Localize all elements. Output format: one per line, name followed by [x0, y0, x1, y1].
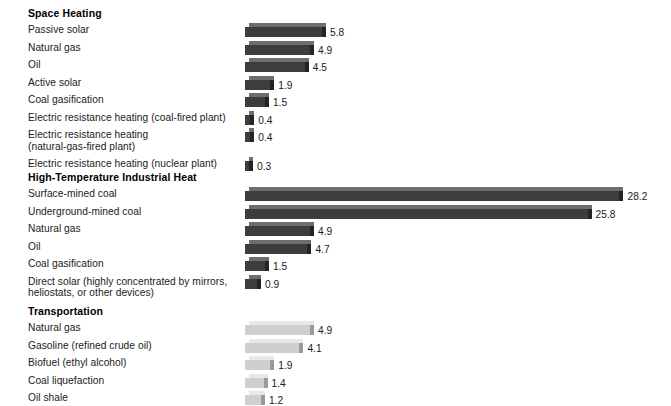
bar	[245, 205, 592, 219]
bar-side-face	[250, 132, 254, 142]
value-label: 4.9	[318, 325, 332, 336]
bar-front-face	[245, 244, 307, 254]
value-label: 28.2	[627, 191, 647, 202]
category-label: Natural gas	[28, 223, 81, 235]
bar	[245, 321, 314, 335]
bar-front-face	[245, 45, 310, 55]
bar-front-face	[245, 343, 299, 353]
bar-front-face	[245, 80, 270, 90]
bar-side-face	[264, 378, 268, 388]
bar-side-face	[265, 97, 269, 107]
category-label: Passive solar	[28, 24, 89, 36]
value-label: 1.4	[272, 378, 286, 389]
value-label: 1.9	[278, 80, 292, 91]
value-label: 5.8	[330, 27, 344, 38]
category-label: Gasoline (refined crude oil)	[28, 340, 152, 352]
value-label: 0.4	[258, 132, 272, 143]
value-label: 1.9	[278, 360, 292, 371]
bar	[245, 111, 254, 125]
category-label: Direct solar (highly concentrated by mir…	[28, 276, 227, 299]
bar	[245, 41, 314, 55]
category-label: Oil	[28, 59, 41, 71]
value-label: 0.4	[258, 115, 272, 126]
bar-side-face	[261, 395, 265, 405]
bar	[245, 356, 274, 370]
group-header: Transportation	[28, 305, 103, 317]
bar-side-face	[250, 115, 254, 125]
bar	[245, 222, 314, 236]
bar-side-face	[249, 161, 253, 171]
value-label: 0.3	[257, 161, 271, 172]
value-label: 4.9	[318, 45, 332, 56]
bar-side-face	[307, 244, 311, 254]
category-label: Underground-mined coal	[28, 206, 141, 218]
bar	[245, 257, 269, 271]
value-label: 25.8	[596, 209, 616, 220]
value-label: 4.1	[307, 343, 321, 354]
bar-side-face	[299, 343, 303, 353]
bar	[245, 339, 303, 353]
value-label: 4.7	[315, 244, 329, 255]
bar	[245, 374, 268, 388]
bar-side-face	[310, 45, 314, 55]
bar-side-face	[310, 325, 314, 335]
value-label: 1.5	[273, 261, 287, 272]
bar	[245, 187, 623, 201]
bar-side-face	[257, 279, 261, 289]
category-label: Electric resistance heating (coal-fired …	[28, 112, 226, 124]
group-header: Space Heating	[28, 7, 102, 19]
bar	[245, 76, 274, 90]
value-label: 1.5	[273, 97, 287, 108]
bar-front-face	[245, 261, 265, 271]
bar-front-face	[245, 209, 588, 219]
bar-side-face	[619, 191, 623, 201]
category-label: Surface-mined coal	[28, 188, 117, 200]
bar	[245, 128, 254, 142]
bar	[245, 23, 326, 37]
category-label: Natural gas	[28, 322, 81, 334]
category-label: Active solar	[28, 77, 81, 89]
bar-front-face	[245, 226, 310, 236]
bar-side-face	[305, 62, 309, 72]
bar	[245, 157, 253, 171]
category-label: Electric resistance heating (nuclear pla…	[28, 158, 217, 170]
bar-front-face	[245, 325, 310, 335]
bar-side-face	[310, 226, 314, 236]
value-label: 0.9	[265, 279, 279, 290]
category-label: Coal gasification	[28, 94, 104, 106]
group-header: High-Temperature Industrial Heat	[28, 171, 197, 183]
category-label: Oil shale	[28, 392, 68, 404]
category-label: Biofuel (ethyl alcohol)	[28, 357, 127, 369]
value-label: 4.5	[313, 62, 327, 73]
category-label: Electric resistance heating (natural-gas…	[28, 129, 148, 152]
bar	[245, 275, 261, 289]
category-label: Natural gas	[28, 42, 81, 54]
bar	[245, 240, 311, 254]
bar	[245, 391, 265, 405]
bar-front-face	[245, 27, 322, 37]
bar-side-face	[270, 360, 274, 370]
category-label: Oil	[28, 241, 41, 253]
value-label: 1.2	[269, 395, 283, 406]
bar-front-face	[245, 279, 257, 289]
bar-front-face	[245, 191, 619, 201]
category-label: Coal liquefaction	[28, 375, 104, 387]
bar-side-face	[265, 261, 269, 271]
bar-side-face	[322, 27, 326, 37]
bar-front-face	[245, 97, 265, 107]
category-label: Coal gasification	[28, 258, 104, 270]
bar-side-face	[588, 209, 592, 219]
bar-front-face	[245, 378, 264, 388]
bar-front-face	[245, 395, 261, 405]
bar	[245, 93, 269, 107]
bar	[245, 58, 309, 72]
bar-front-face	[245, 360, 270, 370]
bar-front-face	[245, 62, 305, 72]
value-label: 4.9	[318, 226, 332, 237]
bar-side-face	[270, 80, 274, 90]
